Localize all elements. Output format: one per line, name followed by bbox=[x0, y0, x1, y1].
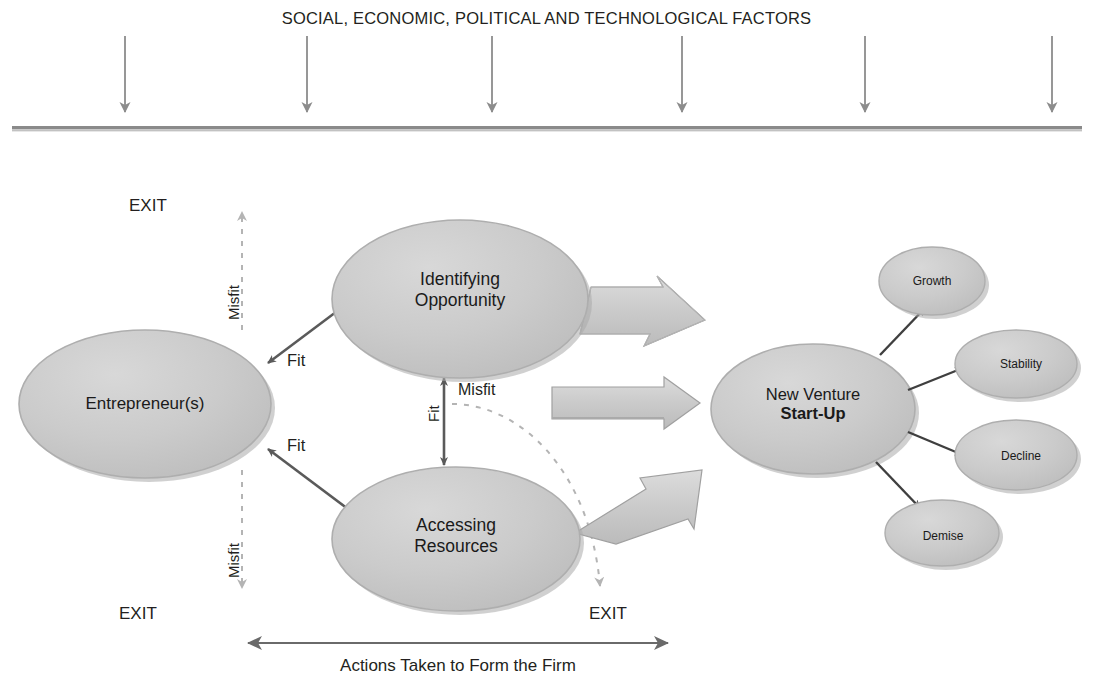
block-arrow-middle bbox=[552, 377, 700, 429]
outcome-label-decline: Decline bbox=[1001, 449, 1041, 463]
outcome-label-stability: Stability bbox=[1000, 357, 1042, 371]
outcome-label-growth: Growth bbox=[913, 274, 952, 288]
exit-label-top: EXIT bbox=[129, 197, 167, 214]
block-arrow-top bbox=[580, 276, 705, 346]
node-label-line2: Opportunity bbox=[415, 290, 505, 311]
arrow-to-demise bbox=[876, 462, 920, 508]
misfit-label-bottom: Misfit bbox=[226, 543, 241, 578]
node-label-identifying-opportunity: Identifying Opportunity bbox=[415, 269, 505, 310]
outcome-label-demise: Demise bbox=[923, 529, 964, 543]
misfit-label-center: Misfit bbox=[458, 382, 495, 398]
node-label-line1: Accessing bbox=[414, 515, 498, 536]
actions-span-label: Actions Taken to Form the Firm bbox=[340, 657, 576, 674]
entrepreneurship-process-diagram bbox=[0, 0, 1093, 693]
node-label-line1: New Venture bbox=[766, 385, 860, 404]
fit-label-center: Fit bbox=[426, 405, 441, 422]
node-label-new-venture-startup: New Venture Start-Up bbox=[766, 385, 860, 424]
diagram-title: SOCIAL, ECONOMIC, POLITICAL AND TECHNOLO… bbox=[282, 10, 812, 27]
environment-arrows bbox=[125, 36, 1052, 112]
environment-baseline bbox=[12, 126, 1082, 131]
exit-label-bottom-right: EXIT bbox=[589, 605, 627, 622]
block-arrow-bottom bbox=[575, 470, 702, 544]
node-label-line2: Start-Up bbox=[766, 404, 860, 423]
fit-label-lower: Fit bbox=[287, 437, 305, 454]
node-label-line2: Resources bbox=[414, 536, 498, 557]
diagram-canvas: SOCIAL, ECONOMIC, POLITICAL AND TECHNOLO… bbox=[0, 0, 1093, 693]
arrow-to-stability bbox=[908, 368, 963, 390]
exit-label-bottom-left: EXIT bbox=[119, 605, 157, 622]
node-label-entrepreneur: Entrepreneur(s) bbox=[85, 394, 204, 414]
node-label-line1: Identifying bbox=[415, 269, 505, 290]
fit-label-upper: Fit bbox=[287, 352, 305, 369]
misfit-label-top: Misfit bbox=[226, 285, 241, 320]
fit-arrow-lower bbox=[268, 449, 352, 512]
node-label-accessing-resources: Accessing Resources bbox=[414, 515, 498, 556]
